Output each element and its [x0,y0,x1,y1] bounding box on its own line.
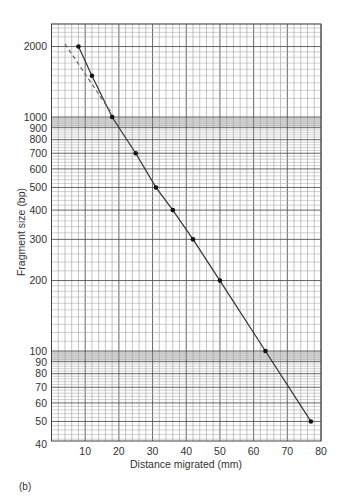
y-axis-label: Fragment size (bp) [15,188,27,276]
svg-text:80: 80 [35,367,47,379]
svg-text:10: 10 [79,445,91,457]
gel-standard-curve-chart: 4050607080901002003004005006007008009001… [0,0,343,496]
svg-text:1000: 1000 [24,111,48,123]
y-axis-ticks: 4050607080901002003004005006007008009001… [24,40,48,450]
panel-label: (b) [19,481,31,492]
svg-text:300: 300 [29,233,47,245]
x-axis-label: Distance migrated (mm) [130,458,242,470]
svg-text:20: 20 [113,445,125,457]
svg-text:500: 500 [29,181,47,193]
svg-text:40: 40 [180,445,192,457]
svg-text:700: 700 [29,147,47,159]
svg-text:900: 900 [29,122,47,134]
svg-text:50: 50 [35,415,47,427]
svg-text:2000: 2000 [24,40,48,52]
svg-text:80: 80 [315,445,327,457]
svg-text:30: 30 [147,445,159,457]
data-series [65,44,313,424]
svg-text:100: 100 [29,345,47,357]
svg-text:40: 40 [35,438,47,450]
svg-text:70: 70 [281,445,293,457]
grid [52,24,322,441]
svg-text:50: 50 [214,445,226,457]
svg-text:60: 60 [35,397,47,409]
svg-text:70: 70 [35,381,47,393]
svg-text:800: 800 [29,133,47,145]
svg-text:200: 200 [29,274,47,286]
svg-text:600: 600 [29,163,47,175]
svg-text:400: 400 [29,204,47,216]
x-axis-ticks: 1020304050607080 [79,445,327,457]
svg-text:60: 60 [248,445,260,457]
svg-text:90: 90 [35,356,47,368]
